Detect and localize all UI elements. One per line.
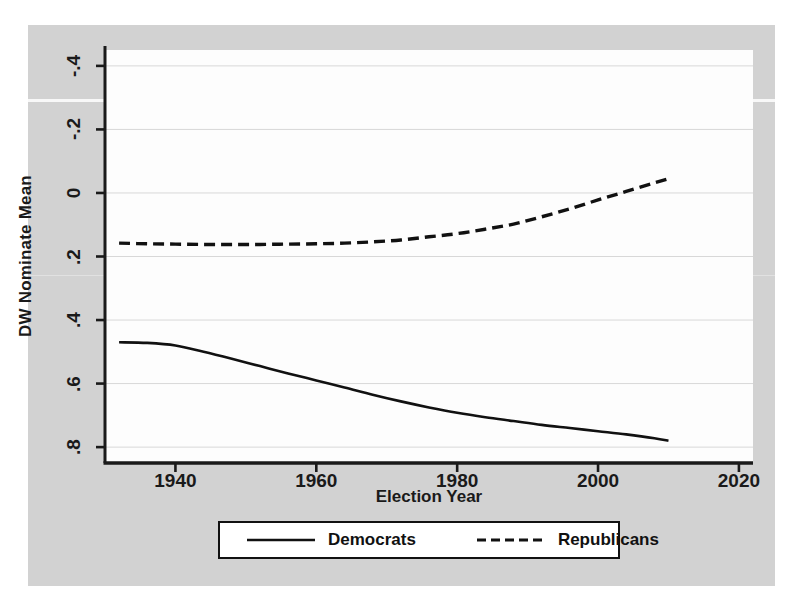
x-tick-label: 1960 — [295, 470, 337, 492]
x-axis-label: Election Year — [376, 487, 482, 507]
legend-key-dashed-icon — [476, 533, 546, 547]
x-tick-label: 2000 — [577, 470, 619, 492]
y-tick-label: 0 — [63, 188, 85, 199]
legend: Democrats Republicans — [218, 521, 620, 559]
legend-label-democrats: Democrats — [328, 530, 416, 550]
gridlines — [105, 66, 753, 447]
data-series-layer — [119, 179, 668, 441]
y-tick-label: .6 — [63, 376, 85, 392]
legend-entry-democrats: Democrats — [246, 530, 416, 550]
y-tick-label: -.2 — [63, 118, 85, 140]
legend-entry-republicans: Republicans — [476, 530, 659, 550]
chart-figure: .8.6.4.20-.2-.4 19401960198020002020 DW … — [0, 0, 797, 612]
plot-area — [105, 50, 753, 463]
y-tick-label: .4 — [63, 312, 85, 328]
x-tick-label: 1940 — [154, 470, 196, 492]
plot-canvas — [105, 50, 753, 463]
series-line-republicans — [119, 179, 668, 245]
series-line-democrats — [119, 342, 668, 440]
x-tick-label: 2020 — [718, 470, 760, 492]
legend-key-solid-icon — [246, 533, 316, 547]
y-tick-label: .8 — [63, 439, 85, 455]
legend-label-republicans: Republicans — [558, 530, 659, 550]
y-tick-label: .2 — [63, 249, 85, 265]
y-axis-label: DW Nominate Mean — [16, 175, 36, 337]
y-tick-label: -.4 — [63, 55, 85, 77]
